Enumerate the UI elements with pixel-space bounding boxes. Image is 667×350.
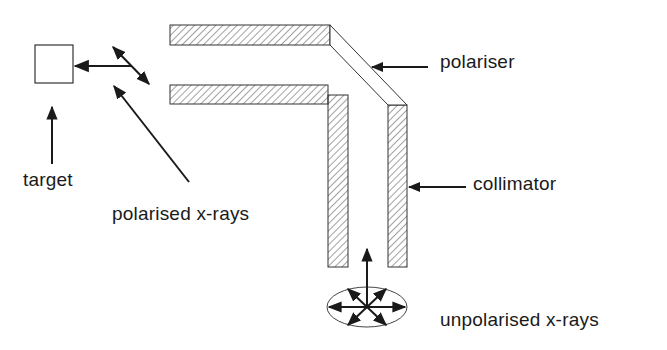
label-collimator: collimator — [473, 174, 556, 193]
label-polarised-x-rays: polarised x-rays — [112, 204, 249, 223]
label-target: target — [23, 170, 73, 189]
collimator-lower-arm-horizontal — [170, 85, 328, 104]
polariser-band — [330, 25, 407, 105]
label-unpolarised-x-rays: unpolarised x-rays — [440, 310, 599, 329]
target-box — [35, 45, 73, 83]
collimator-upper-arm — [170, 25, 330, 45]
label-polariser: polariser — [440, 52, 515, 71]
collimator-inner-vertical — [328, 95, 348, 267]
collimator-outer-vertical — [388, 105, 407, 267]
polariser-diagram — [0, 0, 667, 350]
